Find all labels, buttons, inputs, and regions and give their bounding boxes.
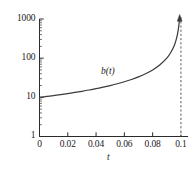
x-axis-title: t	[107, 152, 110, 162]
y-tick-label: 1000	[17, 13, 36, 23]
y-tick-label: 10	[26, 91, 35, 101]
x-axis-major-ticks	[68, 132, 181, 136]
x-tick-label: 0.1	[161, 139, 194, 149]
curve-path	[40, 19, 180, 97]
plot-canvas	[0, 0, 194, 178]
data-curve-b-of-t	[40, 19, 180, 97]
chart-figure: 1101001000 00.020.040.060.080.1 b(t) t	[0, 0, 194, 178]
y-axis-major-ticks	[40, 19, 44, 137]
y-tick-label: 100	[22, 52, 36, 62]
curve-label-b-of-t: b(t)	[101, 66, 115, 76]
axis-lines	[39, 19, 188, 137]
